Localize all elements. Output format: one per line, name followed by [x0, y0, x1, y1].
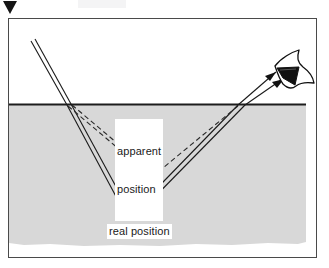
real-position-label: real position	[107, 224, 172, 239]
apparent-position-label-line1: apparent	[117, 145, 161, 158]
refraction-diagram: apparent position real position	[0, 0, 329, 268]
apparent-position-label-line2: position	[117, 183, 161, 196]
down-triangle-marker-icon	[3, 1, 17, 14]
apparent-position-label: apparent position	[115, 119, 163, 221]
scan-artifact	[78, 0, 126, 8]
